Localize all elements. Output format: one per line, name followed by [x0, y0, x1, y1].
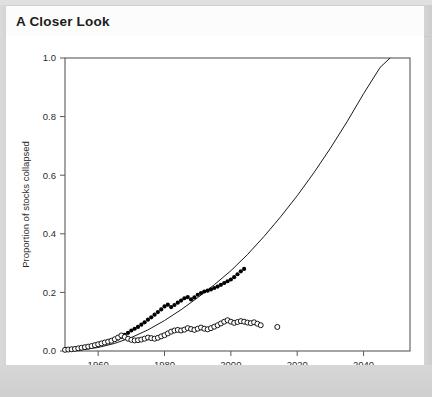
bottom-margin-strip	[0, 365, 432, 397]
data-point	[242, 267, 246, 271]
y-tick-label: 0.6	[43, 170, 56, 181]
data-point	[192, 295, 196, 299]
series-currently-collapsed-open	[63, 318, 280, 353]
right-margin-strip	[424, 0, 432, 397]
page-title: A Closer Look	[16, 14, 110, 29]
y-tick-label: 0.2	[43, 287, 56, 298]
data-point	[232, 275, 236, 279]
y-tick-label: 0.4	[43, 228, 56, 239]
y-tick-label: 0.0	[43, 345, 56, 356]
chart-container: 196019802000202020400.00.20.40.60.81.0Ye…	[6, 36, 424, 366]
screenshot-root: A Closer Look 196019802000202020400.00.2…	[0, 0, 432, 397]
data-point	[235, 272, 239, 276]
data-point	[275, 324, 280, 329]
data-point	[156, 310, 160, 314]
data-point	[143, 320, 147, 324]
data-point	[152, 313, 156, 317]
data-point	[258, 323, 263, 328]
data-point	[159, 307, 163, 311]
panel-body: A Closer Look 196019802000202020400.00.2…	[6, 6, 424, 366]
data-point	[149, 315, 153, 319]
closer-look-panel: A Closer Look 196019802000202020400.00.2…	[6, 5, 424, 366]
y-axis-title: Proportion of stocks collapsed	[20, 141, 31, 268]
collapse-proportion-chart: 196019802000202020400.00.20.40.60.81.0Ye…	[6, 36, 424, 366]
y-tick-label: 1.0	[43, 52, 56, 63]
trend-line-projected-collapse-trend	[65, 58, 390, 351]
y-tick-label: 0.8	[43, 111, 56, 122]
